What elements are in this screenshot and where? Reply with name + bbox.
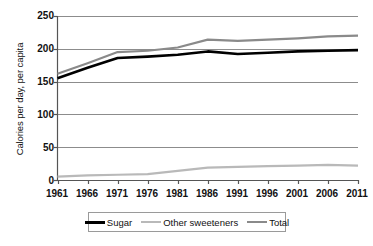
series-line-sugar — [58, 50, 359, 78]
legend-item-other-sweeteners: Other sweeteners — [141, 217, 238, 228]
plot-area — [0, 0, 373, 246]
legend-swatch-total-icon — [247, 221, 267, 223]
legend-item-sugar: Sugar — [85, 217, 132, 228]
series-line-total — [58, 36, 359, 74]
legend: Sugar Other sweeteners Total — [88, 212, 286, 232]
legend-swatch-other-sweeteners-icon — [141, 221, 161, 223]
legend-label-other-sweeteners: Other sweeteners — [163, 217, 238, 228]
legend-label-sugar: Sugar — [107, 217, 132, 228]
legend-swatch-sugar-icon — [85, 221, 105, 224]
legend-label-total: Total — [269, 217, 289, 228]
line-chart: Calories per day, per capita 250 200 150… — [0, 0, 373, 246]
series-lines — [58, 36, 359, 177]
legend-item-total: Total — [247, 217, 289, 228]
series-line-other-sweeteners — [58, 165, 359, 177]
gridlines — [58, 17, 359, 148]
